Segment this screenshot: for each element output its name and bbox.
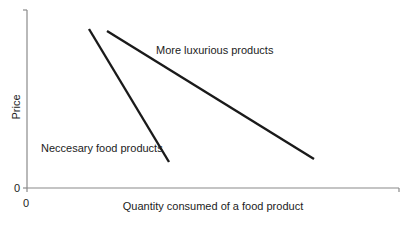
luxurious-products-label: More luxurious products xyxy=(156,44,274,56)
x-axis-title: Quantity consumed of a food product xyxy=(123,200,303,212)
y-axis xyxy=(23,10,27,188)
x-axis xyxy=(27,188,399,192)
y-axis-title: Price xyxy=(10,94,22,119)
x-origin-label: 0 xyxy=(23,197,29,209)
necessary-food-label: Neccesary food products xyxy=(41,142,163,154)
demand-curves-figure: 0 0 Price Quantity consumed of a food pr… xyxy=(0,0,410,226)
y-origin-label: 0 xyxy=(14,182,20,194)
